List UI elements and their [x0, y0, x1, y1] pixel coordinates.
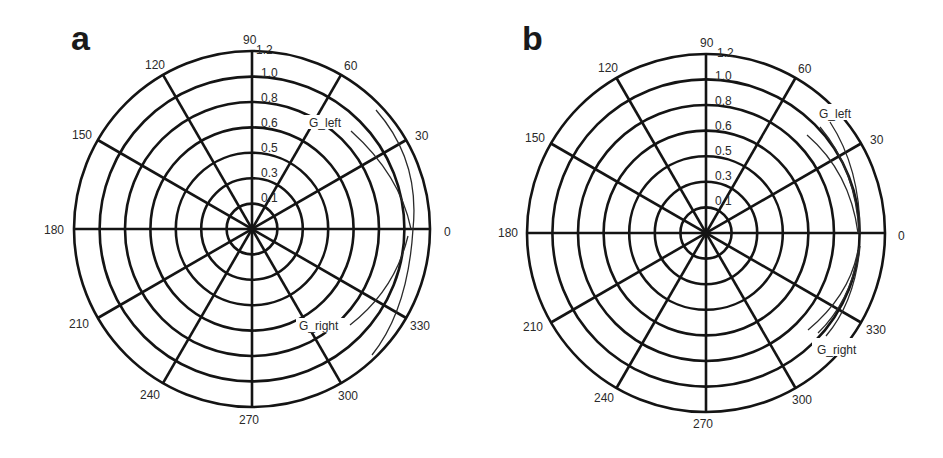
angle-tick-210: 210 — [523, 320, 543, 334]
series-g-left-curve-2 — [820, 127, 859, 233]
series-label-g-right: G_right — [817, 343, 857, 357]
angle-tick-240: 240 — [594, 391, 614, 405]
radial-tick-0.6: 0.6 — [715, 119, 732, 133]
angle-tick-180: 180 — [498, 226, 518, 240]
polar-plot-b: 1.2 1.0 0.8 0.6 0.5 0.3 0.1 90 60 30 0 3… — [471, 0, 942, 458]
angle-tick-120: 120 — [598, 61, 618, 75]
angle-tick-60: 60 — [798, 62, 812, 76]
angle-tick-300: 300 — [792, 393, 812, 407]
radial-tick-0.8: 0.8 — [261, 91, 278, 105]
radial-tick-0.5: 0.5 — [261, 141, 278, 155]
polar-chart-a: a 1.2 1.0 0.8 0.6 0.5 — [0, 0, 471, 458]
angle-tick-90: 90 — [243, 33, 257, 47]
series-label-g-left: G_left — [819, 107, 852, 121]
radial-tick-0.3: 0.3 — [715, 169, 732, 183]
radial-tick-0.8: 0.8 — [715, 94, 732, 108]
angle-tick-30: 30 — [415, 129, 429, 143]
angle-tick-240: 240 — [140, 388, 160, 402]
series-g-right-curve-2 — [818, 248, 859, 333]
angle-tick-0: 0 — [898, 229, 905, 243]
radial-tick-0.5: 0.5 — [715, 144, 732, 158]
angular-grid — [74, 51, 430, 407]
angle-tick-90: 90 — [700, 36, 714, 50]
angle-tick-30: 30 — [870, 133, 884, 147]
angle-tick-150: 150 — [525, 131, 545, 145]
angle-tick-120: 120 — [145, 58, 165, 72]
angle-tick-330: 330 — [410, 319, 430, 333]
series-label-g-left: G_left — [309, 116, 342, 130]
radial-tick-1.0: 1.0 — [261, 66, 278, 80]
polar-plot-a: 1.2 1.0 0.8 0.6 0.5 0.3 0.1 90 60 30 0 3… — [0, 0, 471, 458]
polar-chart-b: b 1.2 1.0 0.8 0 — [471, 0, 942, 458]
radial-tick-1.2: 1.2 — [717, 46, 734, 60]
angle-tick-0: 0 — [444, 225, 451, 239]
angle-tick-60: 60 — [344, 59, 358, 73]
angle-tick-270: 270 — [693, 417, 713, 431]
angle-tick-150: 150 — [72, 128, 92, 142]
radial-tick-1.2: 1.2 — [256, 43, 273, 57]
radial-tick-1.0: 1.0 — [715, 69, 732, 83]
radial-tick-0.1: 0.1 — [715, 194, 732, 208]
radial-tick-0.3: 0.3 — [261, 166, 278, 180]
angle-tick-330: 330 — [866, 323, 886, 337]
radial-tick-0.6: 0.6 — [261, 116, 278, 130]
angle-tick-300: 300 — [338, 389, 358, 403]
angle-tick-270: 270 — [239, 413, 259, 427]
radial-tick-0.1: 0.1 — [261, 191, 278, 205]
angle-tick-210: 210 — [69, 317, 89, 331]
series-label-g-right: G_right — [299, 319, 339, 333]
angle-tick-180: 180 — [44, 223, 64, 237]
